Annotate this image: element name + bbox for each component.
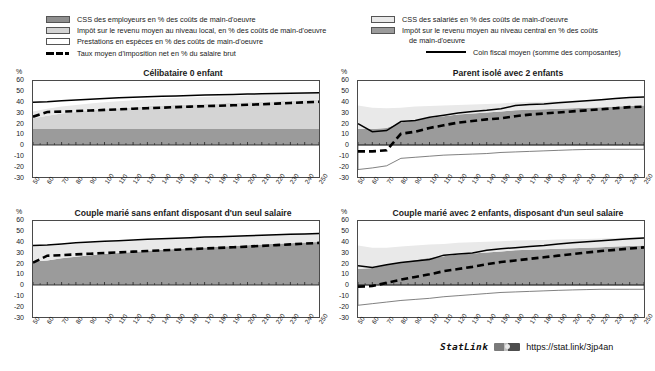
statlink-footer: StatLink https://stat.link/3jp4an — [440, 341, 613, 352]
y-tick-label: -10 — [10, 292, 24, 299]
y-tick-label: 0 — [335, 141, 349, 148]
plot-area — [357, 220, 645, 318]
plot-area — [32, 220, 320, 318]
y-tick-label: -30 — [10, 314, 24, 321]
y-axis-unit: % — [341, 208, 347, 215]
area-Prestations en esp — [358, 285, 644, 305]
legend-label: CSS des salariés en % des coûts de main-… — [402, 15, 655, 25]
legend-label: Taux moyen d'imposition net en % du sala… — [77, 49, 346, 59]
y-tick-label: -10 — [335, 152, 349, 159]
y-tick-label: 30 — [335, 249, 349, 256]
legend-right: CSS des salariés en % des coûts de main-… — [371, 15, 655, 59]
chart-title: Célibataire 0 enfant — [6, 68, 342, 78]
y-tick-label: 50 — [10, 87, 24, 94]
y-tick-label: 20 — [335, 120, 349, 127]
y-tick-label: 20 — [335, 260, 349, 267]
plot-area — [32, 80, 320, 178]
chart-panel-couple-marie-sans-enfant: Couple marié sans enfant disposant d'un … — [6, 208, 324, 328]
legend-label: Prestations en espèces en % des coûts de… — [77, 37, 346, 47]
chart-panel-celibataire-0-enfant: Célibataire 0 enfant%6050403020100-10-20… — [6, 68, 324, 188]
legend-item-employee-sc: CSS des salariés en % des coûts de main-… — [371, 15, 655, 25]
y-tick-label: -20 — [335, 163, 349, 170]
y-tick-label: 50 — [10, 227, 24, 234]
legend-item-local-tax: Impôt sur le revenu moyen au niveau loca… — [46, 26, 346, 36]
legend-label: CSS des employeurs en % des coûts de mai… — [77, 15, 346, 25]
legend-item-central-tax-cont: de main-d'oeuvre — [409, 36, 655, 46]
chart-title: Couple marié avec 2 enfants, disposant d… — [331, 208, 655, 218]
y-axis-unit: % — [16, 68, 22, 75]
y-tick-label: -30 — [10, 174, 24, 181]
y-tick-label: 60 — [10, 76, 24, 83]
legend-item-net-rate: Taux moyen d'imposition net en % du sala… — [46, 49, 346, 59]
legend-left: CSS des employeurs en % des coûts de mai… — [46, 15, 346, 60]
y-tick-label: 40 — [10, 98, 24, 105]
legend-label: Coin fiscal moyen (somme des composantes… — [473, 48, 655, 58]
legend-item-tax-wedge: Coin fiscal moyen (somme des composantes… — [426, 48, 655, 58]
area-Prestations en esp — [358, 145, 644, 170]
y-tick-label: 40 — [335, 98, 349, 105]
chart-panel-parent-isole-2-enfants: Parent isolé avec 2 enfants%605040302010… — [331, 68, 649, 188]
swatch-very-light-gray-icon — [371, 16, 395, 23]
y-tick-label: 20 — [10, 260, 24, 267]
y-tick-label: 20 — [10, 120, 24, 127]
y-tick-label: -20 — [10, 303, 24, 310]
y-tick-label: 60 — [335, 76, 349, 83]
legend-item-central-tax: Impôt sur le revenu moyen au niveau cent… — [371, 26, 655, 36]
swatch-white-icon — [46, 38, 70, 45]
y-tick-label: 40 — [335, 238, 349, 245]
y-tick-label: 60 — [10, 216, 24, 223]
chart-panel-couple-marie-2-enfants: Couple marié avec 2 enfants, disposant d… — [331, 208, 649, 328]
swatch-mid-gray-icon — [371, 27, 395, 34]
statlink-label: StatLink — [440, 341, 488, 352]
legend-item-cash-benefits: Prestations en espèces en % des coûts de… — [46, 37, 346, 47]
solid-line-icon — [426, 51, 466, 53]
legend-item-employer-sc: CSS des employeurs en % des coûts de mai… — [46, 15, 346, 25]
y-tick-label: 40 — [10, 238, 24, 245]
legend-label: Impôt sur le revenu moyen au niveau cent… — [402, 26, 655, 36]
plot-area — [357, 80, 645, 178]
y-tick-label: -30 — [335, 314, 349, 321]
chart-title: Parent isolé avec 2 enfants — [331, 68, 655, 78]
y-tick-label: 0 — [10, 281, 24, 288]
swatch-dark-gray-icon — [46, 16, 70, 23]
y-tick-label: 10 — [10, 270, 24, 277]
y-tick-label: 60 — [335, 216, 349, 223]
y-axis-unit: % — [341, 68, 347, 75]
y-axis-unit: % — [16, 208, 22, 215]
statlink-url[interactable]: https://stat.link/3jp4an — [526, 342, 613, 352]
cut-off-title — [0, 2, 655, 10]
legend-label: Impôt sur le revenu moyen au niveau loca… — [77, 26, 346, 36]
y-tick-label: 10 — [10, 130, 24, 137]
y-tick-label: -30 — [335, 174, 349, 181]
y-tick-label: 30 — [335, 109, 349, 116]
y-tick-label: 0 — [335, 281, 349, 288]
y-tick-label: 10 — [335, 270, 349, 277]
statlink-badge-icon — [494, 343, 520, 351]
y-tick-label: -20 — [335, 303, 349, 310]
y-tick-label: -20 — [10, 163, 24, 170]
y-tick-label: 30 — [10, 249, 24, 256]
swatch-light-gray-icon — [46, 27, 70, 34]
y-tick-label: 30 — [10, 109, 24, 116]
chart-title: Couple marié sans enfant disposant d'un … — [6, 208, 342, 218]
y-tick-label: 10 — [335, 130, 349, 137]
legend-label: de main-d'oeuvre — [409, 36, 655, 46]
y-tick-label: 50 — [335, 87, 349, 94]
y-tick-label: -10 — [335, 292, 349, 299]
y-tick-label: 0 — [10, 141, 24, 148]
dashed-line-icon — [46, 52, 70, 55]
y-tick-label: 50 — [335, 227, 349, 234]
y-tick-label: -10 — [10, 152, 24, 159]
